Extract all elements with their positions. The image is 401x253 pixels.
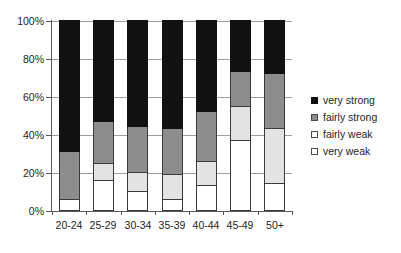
y-axis-label-40: 40% [2,130,44,140]
bar-segment-50+-very-strong [264,20,285,74]
bar-segment-35-39-very-strong [162,20,183,129]
bar-segment-45-49-fairly-weak [230,106,251,141]
x-axis-line [51,211,293,212]
legend-swatch-very-weak-icon [311,148,318,155]
bar-35-39 [162,21,183,211]
y-axis-label-60: 60% [2,92,44,102]
bar-segment-35-39-fairly-strong [162,128,183,175]
bar-segment-50+-fairly-weak [264,128,285,184]
bar-segment-25-29-fairly-strong [93,121,114,164]
y-axis-label-20: 20% [2,168,44,178]
x-axis-label-30-34: 30-34 [121,219,155,231]
x-axis-label-45-49: 45-49 [223,219,257,231]
x-tick-2 [121,211,122,215]
y-axis-labels: 100% 80% 60% 40% 20% 0% [0,0,44,253]
bar-segment-35-39-fairly-weak [162,174,183,200]
legend-swatch-very-strong-icon [311,97,318,104]
legend-label-fairly-weak: fairly weak [323,128,373,140]
legend-label-very-strong: very strong [323,94,375,106]
bar-segment-25-29-fairly-weak [93,163,114,181]
legend-item-very-weak: very weak [311,143,399,159]
bar-25-29 [93,21,114,211]
bar-segment-20-24-fairly-strong [59,151,80,200]
bar-segment-40-44-very-weak [196,185,217,211]
x-tick-5 [223,211,224,215]
bar-segment-45-49-fairly-strong [230,71,251,106]
legend-item-fairly-strong: fairly strong [311,109,399,125]
bar-segment-50+-very-weak [264,183,285,211]
bar-segment-20-24-very-strong [59,20,80,152]
bar-segment-25-29-very-strong [93,20,114,122]
bar-segment-40-44-fairly-strong [196,111,217,161]
bar-segment-45-49-very-strong [230,20,251,72]
legend-swatch-fairly-weak-icon [311,131,318,138]
y-axis-label-0: 0% [2,206,44,216]
y-axis-label-100: 100% [2,16,44,26]
bar-segment-25-29-very-weak [93,180,114,211]
x-tick-1 [86,211,87,215]
y-axis-label-80: 80% [2,54,44,64]
chart-legend: very strong fairly strong fairly weak ve… [311,92,399,160]
plot-area [52,21,292,211]
x-axis-label-50+: 50+ [258,219,292,231]
bar-segment-40-44-very-strong [196,20,217,112]
legend-item-very-strong: very strong [311,92,399,108]
x-tick-0 [52,211,53,215]
bar-segment-30-34-very-weak [127,191,148,211]
bar-segment-50+-fairly-strong [264,73,285,129]
x-tick-6 [258,211,259,215]
bar-segment-30-34-fairly-strong [127,126,148,173]
x-axis-label-25-29: 25-29 [86,219,120,231]
x-axis-label-35-39: 35-39 [155,219,189,231]
bar-segment-30-34-fairly-weak [127,172,148,192]
bar-30-34 [127,21,148,211]
bar-50+ [264,21,285,211]
bar-20-24 [59,21,80,211]
legend-swatch-fairly-strong-icon [311,114,318,121]
legend-item-fairly-weak: fairly weak [311,126,399,142]
stacked-bar-chart: 100% 80% 60% 40% 20% 0% 20-2425-2930-343… [0,0,401,253]
bar-segment-45-49-very-weak [230,140,251,211]
bar-segment-30-34-very-strong [127,20,148,127]
x-tick-4 [189,211,190,215]
legend-label-very-weak: very weak [323,145,370,157]
x-axis-label-40-44: 40-44 [189,219,223,231]
bar-segment-35-39-very-weak [162,199,183,211]
x-tick-7 [292,211,293,215]
bar-segment-20-24-very-weak [59,199,80,211]
legend-label-fairly-strong: fairly strong [323,111,377,123]
bar-40-44 [196,21,217,211]
x-tick-3 [155,211,156,215]
bar-45-49 [230,21,251,211]
bar-segment-40-44-fairly-weak [196,161,217,187]
x-axis-label-20-24: 20-24 [52,219,86,231]
